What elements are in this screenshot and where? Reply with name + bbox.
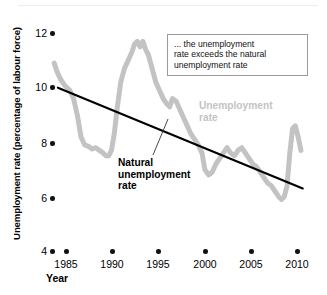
callout-line-1: ... the unemployment [174,39,302,49]
natural-rate-label-line1: Natural [118,157,190,169]
natural-rate-label: Natural unemployment rate [118,157,190,192]
callout-box: ... the unemployment rate exceeds the na… [167,34,308,76]
callout-line-3: unemployment rate [174,60,302,70]
unemployment-chart-figure: Unemployment rate (percentage of labour … [0,0,327,295]
natural-rate-leader-line [153,119,168,155]
natural-rate-label-line2: unemployment [118,169,190,181]
callout-line-2: rate exceeds the natural [174,49,302,59]
unemployment-rate-label: Unemployment rate [199,100,273,123]
unemployment-rate-label-line2: rate [199,112,273,124]
unemployment-rate-label-line1: Unemployment [199,100,273,112]
natural-rate-label-line3: rate [118,180,190,192]
